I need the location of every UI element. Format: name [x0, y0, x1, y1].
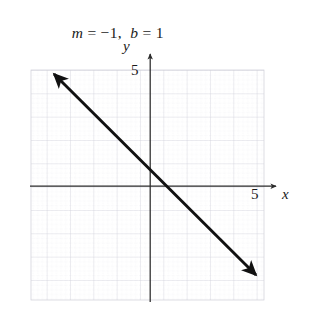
y-axis-label: y: [123, 38, 130, 55]
graph-figure: m = −1, b = 1: [0, 0, 309, 312]
grid-lines: [31, 70, 264, 300]
x-axis-tick-label: 5: [251, 186, 259, 203]
x-axis-label: x: [282, 186, 289, 203]
coordinate-plane: [0, 0, 309, 312]
y-axis-tick-label: 5: [131, 62, 139, 79]
